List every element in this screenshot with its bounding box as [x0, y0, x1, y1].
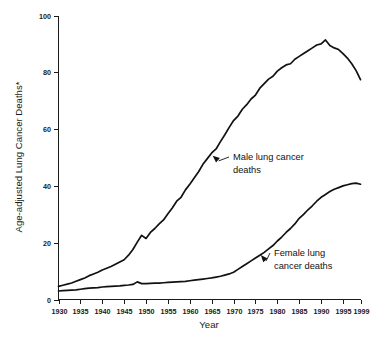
x-tick-label: 1930 — [52, 307, 68, 316]
x-tick-label: 1965 — [205, 307, 221, 316]
x-tick-label: 1950 — [139, 307, 155, 316]
chart-canvas: 020406080100 193019351940194519501955196… — [0, 0, 381, 346]
x-tick-label: 1985 — [292, 307, 308, 316]
female-annotation-line-1: Female lung — [274, 248, 325, 258]
y-tick-label: 0 — [47, 296, 51, 305]
y-tick-labels: 020406080100 — [39, 12, 51, 305]
female-annotation-line-2: cancer deaths — [274, 261, 333, 271]
y-tick-label: 60 — [43, 125, 51, 134]
male-annotation: Male lung cancer deaths — [213, 152, 304, 175]
x-tick-label: 1995 — [336, 307, 352, 316]
y-axis-title: Age-adjusted Lung Cancer Deaths* — [13, 81, 24, 232]
y-tick-label: 100 — [39, 12, 51, 21]
male-arrow-head — [213, 156, 220, 163]
x-tick-label: 1960 — [183, 307, 199, 316]
x-tick-label: 1945 — [117, 307, 133, 316]
x-axis-title: Year — [199, 319, 219, 330]
female-leader-line — [266, 253, 270, 261]
male-leader-line — [219, 157, 229, 161]
female-arrow-head — [261, 255, 268, 262]
series-line — [59, 183, 361, 291]
lung-cancer-death-rate-chart: 020406080100 193019351940194519501955196… — [0, 0, 381, 346]
x-tick-label: 1999 — [354, 307, 370, 316]
y-tick-label: 80 — [43, 68, 51, 77]
x-tick-label: 1970 — [227, 307, 243, 316]
female-annotation: Female lung cancer deaths — [261, 248, 333, 271]
y-tick-label: 40 — [43, 182, 51, 191]
x-tick-label: 1990 — [314, 307, 330, 316]
male-annotation-line-2: deaths — [233, 165, 261, 175]
x-tick-label: 1940 — [95, 307, 111, 316]
x-tick-labels: 1930193519401945195019551960196519701975… — [52, 307, 370, 316]
x-tick-label: 1955 — [161, 307, 177, 316]
x-tick-label: 1935 — [73, 307, 89, 316]
x-tick-label: 1980 — [270, 307, 286, 316]
male-annotation-line-1: Male lung cancer — [233, 152, 304, 162]
x-tick-label: 1975 — [248, 307, 264, 316]
y-tick-label: 20 — [43, 239, 51, 248]
